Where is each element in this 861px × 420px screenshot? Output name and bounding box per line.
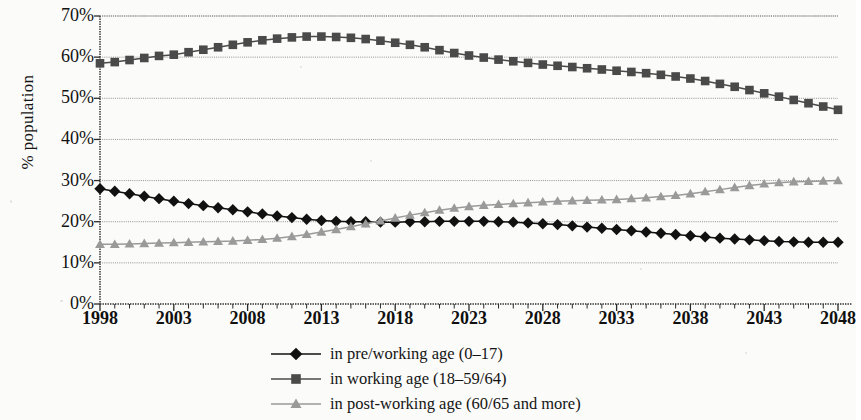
data-point-marker: [494, 55, 503, 64]
data-point-marker: [509, 57, 518, 66]
data-point-marker: [242, 206, 253, 217]
data-point-marker: [655, 228, 666, 239]
data-point-marker: [729, 233, 740, 244]
data-point-marker: [818, 237, 829, 248]
data-point-marker: [803, 237, 814, 248]
data-point-marker: [212, 202, 223, 213]
data-point-marker: [184, 48, 193, 57]
series-3: [95, 176, 843, 248]
x-tick-label: 2003: [139, 308, 209, 329]
data-point-marker: [271, 210, 282, 221]
data-point-marker: [552, 219, 563, 230]
data-point-marker: [96, 59, 105, 68]
data-point-marker: [110, 58, 119, 67]
series-line: [100, 181, 838, 245]
data-point-marker: [804, 99, 813, 108]
data-point-marker: [493, 216, 504, 227]
data-point-marker: [539, 60, 548, 69]
data-point-marker: [214, 43, 223, 52]
data-point-marker: [716, 80, 725, 89]
data-point-marker: [775, 92, 784, 101]
x-tick-label: 2023: [434, 308, 504, 329]
legend-label: in post-working age (60/65 and more): [324, 394, 581, 414]
x-tick-label: 2013: [286, 308, 356, 329]
data-point-marker: [317, 32, 326, 41]
data-point-marker: [406, 41, 415, 50]
data-point-marker: [183, 198, 194, 209]
data-point-marker: [229, 41, 238, 50]
data-point-marker: [153, 193, 164, 204]
x-tick-label: 2048: [803, 308, 861, 329]
data-point-marker: [290, 347, 303, 360]
data-point-marker: [788, 236, 799, 247]
data-point-marker: [302, 32, 311, 41]
data-point-marker: [671, 72, 680, 81]
data-point-marker: [508, 216, 519, 227]
scan-speck: [10, 200, 12, 203]
data-point-marker: [361, 35, 370, 44]
data-point-marker: [524, 59, 533, 68]
data-point-marker: [94, 183, 105, 194]
legend-marker-diamond-icon: [268, 344, 324, 364]
data-point-marker: [125, 56, 134, 65]
data-point-marker: [463, 216, 474, 227]
series-line: [100, 189, 838, 242]
data-point-marker: [199, 45, 208, 54]
data-point-marker: [139, 191, 150, 202]
data-point-marker: [332, 33, 341, 42]
data-point-marker: [301, 214, 312, 225]
data-point-marker: [109, 186, 120, 197]
scan-speck: [370, 160, 372, 162]
scan-speck: [60, 300, 63, 302]
data-point-marker: [168, 195, 179, 206]
data-point-marker: [316, 215, 327, 226]
data-point-marker: [583, 64, 592, 73]
series-2: [96, 32, 843, 114]
x-tick-label: 2033: [582, 308, 652, 329]
data-point-marker: [155, 52, 164, 61]
data-point-marker: [627, 68, 636, 77]
data-point-marker: [567, 220, 578, 231]
data-point-marker: [701, 77, 710, 86]
data-point-marker: [612, 66, 621, 75]
data-point-marker: [834, 106, 843, 115]
data-point-marker: [243, 38, 252, 47]
data-point-marker: [522, 217, 533, 228]
x-tick-label: 1998: [65, 308, 135, 329]
data-point-marker: [478, 216, 489, 227]
data-point-marker: [391, 38, 400, 47]
data-point-marker: [258, 36, 267, 45]
data-point-marker: [657, 71, 666, 80]
x-tick-label: 2018: [360, 308, 430, 329]
data-point-marker: [479, 53, 488, 62]
data-point-marker: [745, 86, 754, 95]
data-point-marker: [273, 34, 282, 43]
scan-speck: [300, 66, 302, 68]
data-point-marker: [819, 102, 828, 111]
data-point-marker: [789, 96, 798, 105]
data-point-marker: [291, 374, 301, 384]
data-point-marker: [626, 225, 637, 236]
data-point-marker: [744, 234, 755, 245]
x-tick-label: 2043: [729, 308, 799, 329]
x-axis-tick-labels: 1998200320082013201820232028203320382043…: [0, 308, 856, 336]
data-point-marker: [257, 208, 268, 219]
data-point-marker: [714, 232, 725, 243]
legend-item-2[interactable]: in working age (18–59/64): [268, 366, 688, 391]
data-point-marker: [420, 43, 429, 52]
data-point-marker: [198, 200, 209, 211]
data-point-marker: [568, 63, 577, 72]
legend-item-3[interactable]: in post-working age (60/65 and more): [268, 391, 688, 416]
data-point-marker: [670, 229, 681, 240]
legend-marker-square-icon: [268, 369, 324, 389]
data-point-marker: [376, 36, 385, 45]
x-tick-label: 2038: [655, 308, 725, 329]
data-point-marker: [699, 231, 710, 242]
data-point-marker: [611, 224, 622, 235]
legend-item-1[interactable]: in pre/working age (0–17): [268, 341, 688, 366]
data-point-marker: [347, 34, 356, 43]
data-point-marker: [434, 216, 445, 227]
data-point-marker: [686, 74, 695, 83]
scan-speck: [745, 352, 747, 354]
